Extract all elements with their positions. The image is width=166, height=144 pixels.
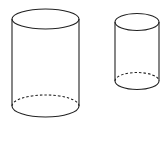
- large-cylinder-top: [12, 9, 79, 29]
- small-cylinder-bottom-back: [115, 73, 159, 81]
- large-cylinder-bottom-back: [12, 95, 79, 106]
- cylinders-diagram: [0, 0, 166, 144]
- small-cylinder-bottom-front: [115, 81, 159, 90]
- small-cylinder: [115, 14, 159, 90]
- small-cylinder-top: [115, 14, 159, 31]
- large-cylinder: [12, 9, 79, 117]
- large-cylinder-bottom-front: [12, 106, 79, 117]
